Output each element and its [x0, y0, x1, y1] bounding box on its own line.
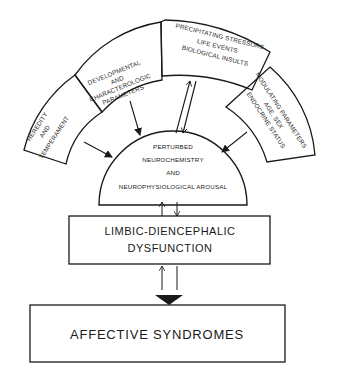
svg-text:PERTURBED: PERTURBED	[153, 143, 193, 150]
arrow-limbic-to-affective-head	[155, 295, 183, 305]
affective-label: AFFECTIVE SYNDROMES	[70, 327, 244, 342]
modulating-label: MODULATING PARAMETERS AGE, SEX ENDOCRINE…	[239, 71, 308, 159]
svg-text:AND: AND	[166, 169, 180, 176]
svg-text:LIMBIC-DIENCEPHALIC: LIMBIC-DIENCEPHALIC	[104, 225, 235, 237]
arrow-precipitating-to-core	[183, 81, 196, 133]
developmental-label: DEVELOPMENTAL AND CHARACTEROLOGIC PARAME…	[82, 57, 155, 110]
arrow-heredity-to-core	[84, 142, 112, 157]
arrow-core-to-precipitating	[176, 81, 190, 133]
arrow-modulating-to-core	[222, 132, 247, 152]
svg-text:NEUROCHEMISTRY: NEUROCHEMISTRY	[142, 156, 203, 163]
limbic-box	[69, 216, 270, 264]
svg-text:DYSFUNCTION: DYSFUNCTION	[128, 242, 213, 254]
arrow-developmental-to-core	[130, 101, 140, 135]
precipitating-label: PRECIPITATING STRESSORS LIFE EVENTS BIOL…	[170, 22, 265, 70]
affective-syndromes-diagram: HEREDITY AND TEMPERAMENT DEVELOPMENTAL A…	[0, 0, 337, 379]
svg-text:NEUROPHYSIOLOGICAL AROUSAL: NEUROPHYSIOLOGICAL AROUSAL	[119, 183, 228, 190]
